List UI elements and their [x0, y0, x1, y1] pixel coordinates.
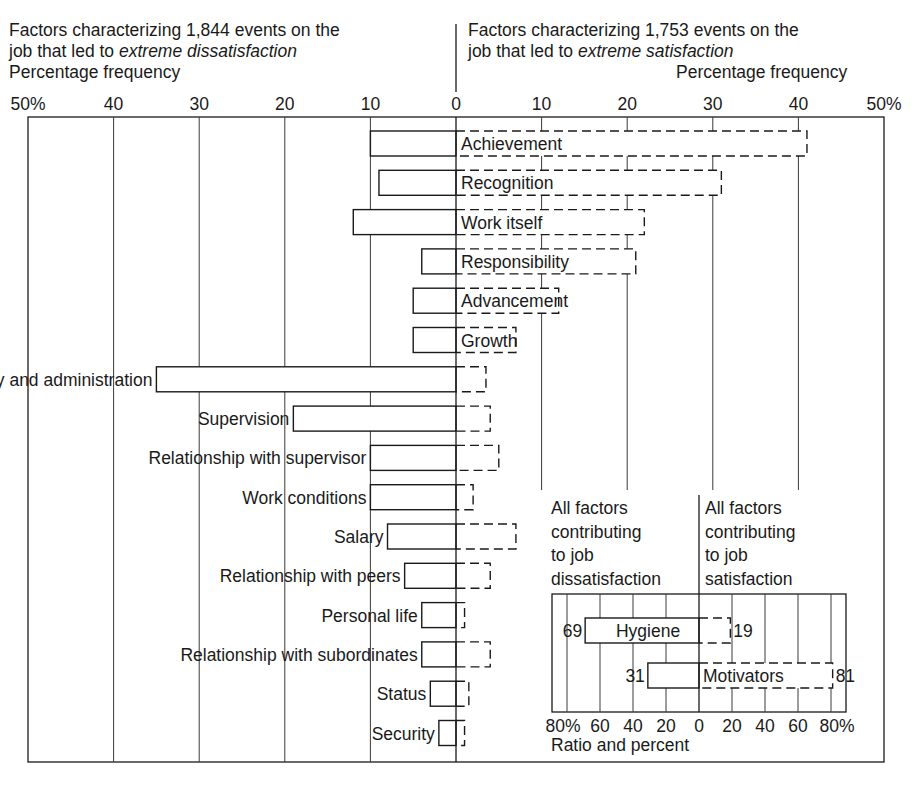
inset-tick-label: 80%: [545, 716, 580, 736]
bar-label: Status: [377, 684, 427, 704]
x-tick-label-left: 10: [361, 94, 381, 114]
bar-label: Relationship with subordinates: [180, 645, 418, 665]
factor-chart: 50%4030201001020304050%AchievementRecogn…: [0, 0, 912, 788]
inset-value-right: 19: [733, 621, 752, 641]
x-tick-label-right: 20: [617, 94, 637, 114]
bar-backing: [370, 131, 807, 156]
inset-title-right-line: All factors: [705, 498, 782, 518]
inset-tick-label: 40: [755, 716, 775, 736]
inset-tick-label: 0: [694, 716, 704, 736]
inset-bar-label: Hygiene: [616, 621, 680, 641]
bar-label: Achievement: [461, 134, 562, 154]
bar-label: Supervision: [198, 409, 289, 429]
inset-tick-label: 80%: [819, 716, 854, 736]
inset-tick-label: 40: [623, 716, 643, 736]
x-tick-label-right: 40: [789, 94, 809, 114]
bar-label: Relationship with supervisor: [149, 448, 367, 468]
x-tick-label-left: 20: [275, 94, 295, 114]
x-tick-label-left: 40: [104, 94, 124, 114]
inset-tick-label: 20: [722, 716, 742, 736]
bar-label: Recognition: [461, 173, 553, 193]
inset-tick-label: 60: [590, 716, 610, 736]
inset-title-right-line: to job: [705, 545, 748, 565]
bar-label: Work itself: [461, 213, 542, 233]
inset-title-left-line: All factors: [551, 498, 628, 518]
inset-tick-label: 60: [788, 716, 808, 736]
x-tick-label-left: 0: [451, 94, 461, 114]
bar-label: Salary: [334, 527, 384, 547]
bar-backing: [388, 524, 516, 549]
bar-label: Responsibility: [461, 252, 569, 272]
bar-label: Company policy and administration: [0, 370, 152, 390]
x-tick-label-left: 30: [189, 94, 209, 114]
x-tick-label-right: 30: [703, 94, 723, 114]
x-tick-label-right: 10: [532, 94, 552, 114]
bar-backing: [439, 721, 465, 746]
bar-label: Growth: [461, 331, 517, 351]
inset-axis-label: Ratio and percent: [551, 735, 689, 755]
bar-backing: [293, 406, 490, 431]
inset-title-right-line: satisfaction: [705, 569, 793, 589]
inset-title-left-line: to job: [551, 545, 594, 565]
bar-label: Relationship with peers: [220, 566, 401, 586]
chart-root: Factors characterizing 1,844 events on t…: [0, 0, 912, 788]
inset-title-left-line: dissatisfaction: [551, 569, 661, 589]
inset-bar-label: Motivators: [703, 666, 784, 686]
inset-value-left: 31: [625, 666, 644, 686]
inset-title-left-line: contributing: [551, 522, 641, 542]
bar-label: Work conditions: [242, 488, 366, 508]
inset-title-right-line: contributing: [705, 522, 795, 542]
bar-backing: [370, 485, 473, 510]
inset-tick-label: 20: [656, 716, 676, 736]
bar-backing: [405, 563, 491, 588]
x-tick-label-right: 50%: [866, 94, 901, 114]
bar-backing: [430, 681, 469, 706]
x-tick-label-left: 50%: [10, 94, 45, 114]
bar-label: Advancement: [461, 291, 568, 311]
bar-backing: [156, 367, 486, 392]
bar-backing: [370, 445, 498, 470]
bar-label: Security: [372, 724, 435, 744]
bar-backing: [422, 603, 465, 628]
bar-label: Personal life: [321, 606, 417, 626]
inset-value-left: 69: [563, 621, 582, 641]
inset-value-right: 81: [836, 666, 855, 686]
